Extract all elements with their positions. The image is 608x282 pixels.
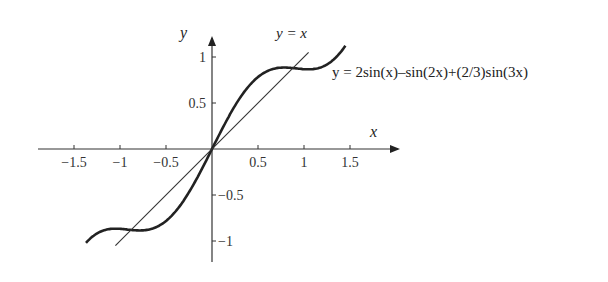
y-axis-label: y (178, 24, 188, 42)
y-tick-label: 0.5 (189, 96, 207, 111)
x-axis-label: x (369, 123, 377, 140)
x-tick-label: 1.5 (341, 155, 359, 170)
chart: −1.5−1−0.50.511.5 10.5−0.5−1 x y y = x y… (0, 0, 608, 282)
curve-label: y = 2sin(x)–sin(2x)+(2/3)sin(3x) (332, 64, 528, 81)
y-tick-label: 1 (199, 50, 206, 65)
curve-series (86, 46, 345, 243)
y-tick-label: −1 (218, 234, 233, 249)
x-tick-label: −0.5 (153, 155, 178, 170)
y-tick-label: −0.5 (218, 188, 243, 203)
x-tick-label: 1 (301, 155, 308, 170)
plot-area (86, 46, 345, 246)
x-tick-label: −1.5 (61, 155, 86, 170)
x-tick-label: −1 (113, 155, 128, 170)
line-label-y-equals-x: y = x (274, 25, 307, 41)
x-tick-label: 0.5 (249, 155, 267, 170)
